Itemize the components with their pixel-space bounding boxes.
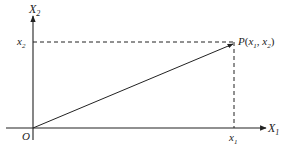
- y-axis-label: X2: [28, 2, 40, 18]
- point-label: P(x1, x2): [237, 35, 275, 50]
- x-axis-label: X1: [267, 121, 279, 137]
- x-tick-label: x1: [228, 131, 237, 146]
- position-vector: [33, 44, 233, 128]
- y-tick-label: x2: [16, 35, 26, 50]
- origin-label: O: [22, 130, 30, 142]
- vector-diagram: X2 x2 O x1 X1 P(x1, x2): [0, 0, 285, 148]
